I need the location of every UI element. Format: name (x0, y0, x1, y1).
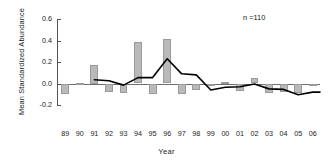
x-tick-label: 89 (58, 129, 72, 138)
chart-figure: Mean Standardized Abundance 0.60.40.20.0… (0, 0, 333, 165)
x-tick-label: 94 (131, 129, 145, 138)
trend-line-series (58, 19, 320, 105)
x-tick-label: 91 (87, 129, 101, 138)
x-tick-label: 04 (277, 129, 291, 138)
y-tick-label: 0.0 (30, 80, 52, 87)
x-tick-label: 99 (204, 129, 218, 138)
x-tick-label: 05 (291, 129, 305, 138)
x-tick-label: 90 (73, 129, 87, 138)
plot-area (58, 19, 320, 105)
x-tick-label: 01 (233, 129, 247, 138)
x-tick-label: 93 (117, 129, 131, 138)
x-axis-tick-labels: 899091929394959697989900010203040506 (58, 129, 320, 141)
y-tick-label: 0.6 (30, 15, 52, 22)
y-axis-tick-labels: 0.60.40.20.0-0.2 (26, 0, 52, 165)
y-tick-mark (57, 19, 61, 20)
y-tick-label: 0.4 (30, 37, 52, 44)
y-tick-mark (57, 105, 61, 106)
x-tick-label: 96 (160, 129, 174, 138)
y-tick-mark (57, 84, 61, 85)
x-tick-label: 97 (175, 129, 189, 138)
x-tick-label: 00 (218, 129, 232, 138)
x-tick-label: 98 (189, 129, 203, 138)
y-tick-label: -0.2 (30, 101, 52, 108)
x-axis-title: Year (0, 147, 333, 156)
x-tick-label: 03 (262, 129, 276, 138)
x-tick-label: 95 (146, 129, 160, 138)
x-tick-label: 02 (248, 129, 262, 138)
sample-size-annotation: n =110 (243, 13, 265, 22)
x-tick-label: 06 (306, 129, 320, 138)
y-axis-title: Mean Standardized Abundance (17, 4, 26, 119)
y-tick-mark (57, 62, 61, 63)
y-tick-label: 0.2 (30, 58, 52, 65)
y-tick-mark (57, 41, 61, 42)
x-tick-label: 92 (102, 129, 116, 138)
